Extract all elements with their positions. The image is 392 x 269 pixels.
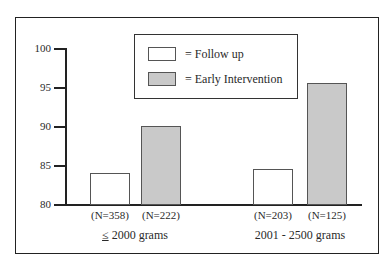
y-tick-100 bbox=[54, 48, 66, 50]
y-tick-95 bbox=[54, 87, 66, 89]
y-tick-80 bbox=[54, 204, 66, 206]
n-label: (N=125) bbox=[297, 209, 357, 221]
legend: = Follow up = Early Intervention bbox=[134, 34, 298, 99]
less-equal-symbol: ≤ bbox=[102, 228, 109, 242]
y-tick-85 bbox=[54, 165, 66, 167]
group-label-2001-2500: 2001 - 2500 grams bbox=[230, 228, 370, 243]
group-label-le2000: ≤ 2000 grams bbox=[65, 228, 205, 243]
bar-early-intervention-2001-2500 bbox=[307, 83, 347, 205]
legend-swatch-follow-up bbox=[148, 47, 176, 61]
y-tick-90 bbox=[54, 126, 66, 128]
legend-label-early-intervention: = Early Intervention bbox=[185, 72, 282, 86]
legend-label-follow-up: = Follow up bbox=[185, 47, 244, 61]
y-tick-label: 80 bbox=[11, 198, 51, 210]
bar-follow-up-2001-2500 bbox=[253, 169, 293, 205]
y-tick-label: 95 bbox=[11, 81, 51, 93]
n-label: (N=222) bbox=[131, 209, 191, 221]
legend-swatch-early-intervention bbox=[148, 72, 176, 86]
y-tick-label: 100 bbox=[11, 42, 51, 54]
group-label-text: 2000 grams bbox=[109, 228, 168, 242]
bar-early-intervention-le2000 bbox=[141, 126, 181, 205]
n-label: (N=203) bbox=[243, 209, 303, 221]
bar-follow-up-le2000 bbox=[90, 173, 130, 205]
y-tick-label: 90 bbox=[11, 120, 51, 132]
y-tick-label: 85 bbox=[11, 159, 51, 171]
